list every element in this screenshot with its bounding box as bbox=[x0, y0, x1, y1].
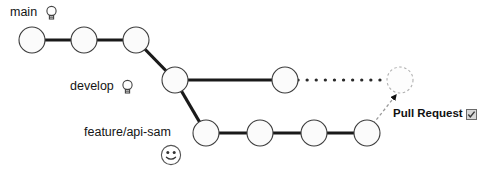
commit-node[interactable] bbox=[301, 120, 327, 146]
commit-node[interactable] bbox=[354, 120, 380, 146]
smiley-icon bbox=[160, 144, 182, 166]
pull-request-label: Pull Request bbox=[393, 108, 463, 120]
commit-node[interactable] bbox=[247, 120, 273, 146]
lightbulb-icon bbox=[45, 5, 58, 20]
checkbox-icon[interactable] bbox=[466, 109, 477, 120]
commit-node[interactable] bbox=[272, 67, 298, 93]
branch-label-main: main bbox=[10, 6, 37, 19]
commit-node[interactable] bbox=[123, 27, 149, 53]
lightbulb-icon bbox=[121, 79, 134, 94]
commit-node[interactable] bbox=[193, 120, 219, 146]
commit-node[interactable] bbox=[71, 27, 97, 53]
commit-node[interactable] bbox=[162, 67, 188, 93]
merge-commit-node-pending[interactable] bbox=[387, 67, 413, 93]
commit-node[interactable] bbox=[19, 27, 45, 53]
branch-label-develop: develop bbox=[70, 80, 114, 93]
branch-label-feature: feature/api-sam bbox=[84, 126, 171, 139]
